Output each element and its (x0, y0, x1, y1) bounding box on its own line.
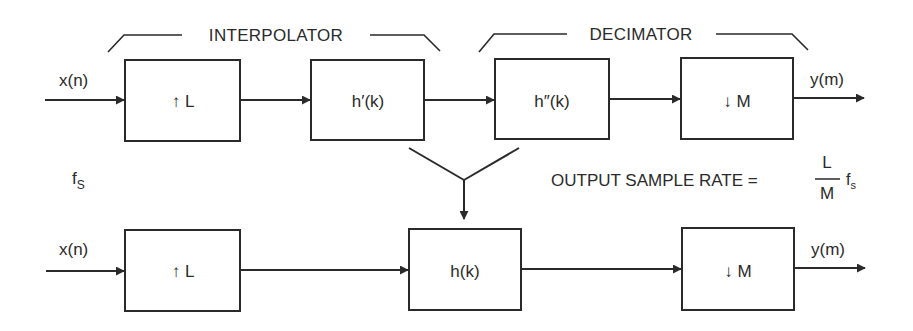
interpolator-label: INTERPOLATOR (209, 26, 343, 45)
top-downsample-label: ↓ M (723, 92, 750, 111)
output-rate-formula: OUTPUT SAMPLE RATE = L M fs (551, 153, 856, 203)
top-upsample-block: ↑ L (125, 60, 240, 141)
bottom-upsample-block: ↑ L (125, 230, 240, 311)
top-upsample-label: ↑ L (172, 92, 195, 111)
top-interp-filter-block: h′(k) (311, 60, 424, 140)
output-rate-numerator: L (822, 153, 831, 172)
output-rate-prefix: OUTPUT SAMPLE RATE = (551, 171, 758, 190)
bottom-row: x(n) ↑ L h(k) ↓ M y(m) (46, 228, 865, 311)
output-rate-denominator: M (820, 184, 834, 203)
decimator-bracket: DECIMATOR (479, 25, 808, 52)
bottom-output-label: y(m) (811, 240, 845, 259)
bottom-input-label: x(n) (59, 240, 88, 259)
top-downsample-block: ↓ M (681, 58, 793, 139)
bottom-combined-filter-label: h(k) (450, 262, 479, 281)
bottom-downsample-block: ↓ M (682, 228, 794, 310)
top-input-label: x(n) (59, 71, 88, 90)
bottom-downsample-label: ↓ M (724, 262, 751, 281)
top-row: INTERPOLATOR DECIMATOR x(n) ↑ L h′(k) h″… (45, 25, 864, 141)
bottom-combined-filter-block: h(k) (409, 229, 521, 310)
top-decim-filter-label: h″(k) (534, 92, 569, 111)
top-interp-filter-label: h′(k) (352, 92, 384, 111)
top-decim-filter-block: h″(k) (495, 59, 609, 139)
interpolator-decimator-diagram: INTERPOLATOR DECIMATOR x(n) ↑ L h′(k) h″… (0, 0, 913, 331)
decimator-label: DECIMATOR (589, 25, 692, 44)
output-rate-fs: fs (846, 171, 856, 191)
top-output-label: y(m) (810, 70, 844, 89)
interpolator-bracket: INTERPOLATOR (108, 26, 440, 52)
bottom-upsample-label: ↑ L (172, 262, 195, 281)
filter-merge-connector (409, 148, 519, 219)
input-rate-label: fS (72, 169, 85, 192)
